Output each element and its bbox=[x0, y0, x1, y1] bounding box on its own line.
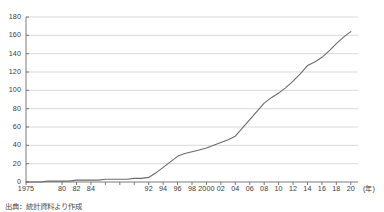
x-axis-tick-label: 08 bbox=[260, 185, 268, 192]
y-axis-tick-label: 100 bbox=[9, 87, 21, 94]
line-chart: 020406080100120140160180 197580828492949… bbox=[0, 0, 384, 212]
y-axis-tick-label: 20 bbox=[13, 160, 21, 167]
x-axis-tick-label: 20 bbox=[347, 185, 355, 192]
y-axis-tick-label: 120 bbox=[9, 68, 21, 75]
y-axis-labels: 020406080100120140160180 bbox=[0, 17, 24, 182]
x-axis-tick-label: 94 bbox=[159, 185, 167, 192]
x-axis-tick-label: 14 bbox=[303, 185, 311, 192]
x-axis-tick-label: 10 bbox=[274, 185, 282, 192]
x-axis-tick-label: 12 bbox=[289, 185, 297, 192]
x-axis-tick-label: 96 bbox=[173, 185, 181, 192]
x-axis-tick-label: 18 bbox=[332, 185, 340, 192]
y-axis-tick-label: 40 bbox=[13, 142, 21, 149]
x-axis-tick-label: 1975 bbox=[18, 185, 34, 192]
y-axis-tick-label: 180 bbox=[9, 13, 21, 20]
y-axis-tick-label: 160 bbox=[9, 32, 21, 39]
data-series-line bbox=[26, 17, 358, 182]
x-axis-tick-label: 16 bbox=[318, 185, 326, 192]
x-axis-tick-label: 82 bbox=[72, 185, 80, 192]
x-axis-unit-label: (年) bbox=[363, 185, 375, 192]
x-axis-tick-label: 02 bbox=[217, 185, 225, 192]
x-axis-labels: 1975808284929496982000020406081012141618… bbox=[26, 185, 358, 197]
x-axis-tick-label: 92 bbox=[145, 185, 153, 192]
chart-caption: 出典：統計資料より作成 bbox=[5, 203, 82, 212]
y-axis-tick-label: 140 bbox=[9, 50, 21, 57]
x-axis-tick-label: 80 bbox=[58, 185, 66, 192]
x-axis-tick-label: 2000 bbox=[198, 185, 214, 192]
x-axis-tick-label: 84 bbox=[87, 185, 95, 192]
x-axis-tick-label: 98 bbox=[188, 185, 196, 192]
plot-area bbox=[26, 17, 358, 182]
y-axis-tick-label: 60 bbox=[13, 123, 21, 130]
y-axis-tick-label: 80 bbox=[13, 105, 21, 112]
x-axis-tick-label: 04 bbox=[231, 185, 239, 192]
x-axis-tick-label: 06 bbox=[246, 185, 254, 192]
